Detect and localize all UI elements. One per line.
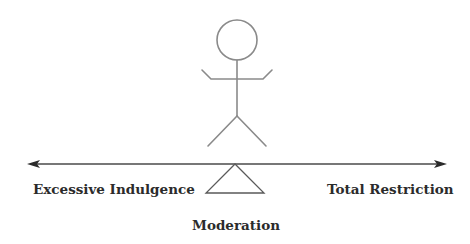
figure-head xyxy=(217,20,257,60)
stick-figure xyxy=(202,20,272,146)
figure-left-leg xyxy=(208,116,237,146)
label-total-restriction: Total Restriction xyxy=(327,183,454,197)
label-excessive-indulgence: Excessive Indulgence xyxy=(33,183,195,197)
figure-right-leg xyxy=(237,116,266,146)
diagram-canvas: Excessive Indulgence Total Restriction M… xyxy=(0,0,470,244)
label-moderation: Moderation xyxy=(192,219,280,233)
fulcrum-triangle xyxy=(206,164,264,193)
diagram-graphics xyxy=(0,0,470,244)
